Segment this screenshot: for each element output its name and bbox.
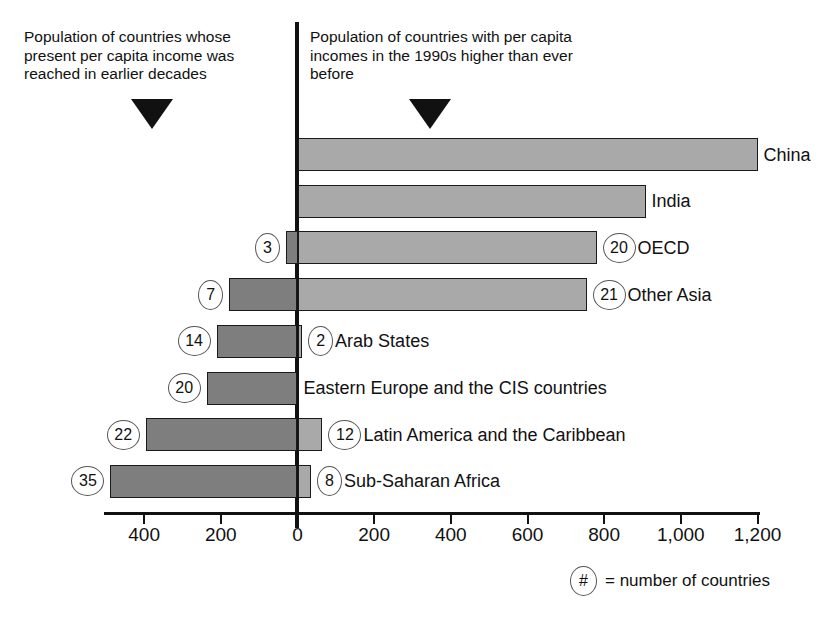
- x-axis-tick: [143, 515, 145, 524]
- bar-left-eastern-europe-and-the-cis-countries: [207, 372, 298, 405]
- x-axis-tick-label: 400: [128, 524, 160, 546]
- caption-left: Population of countries whose present pe…: [24, 28, 284, 84]
- country-count-badge-left: 14: [178, 326, 211, 356]
- bar-left-other-asia: [229, 278, 297, 311]
- x-axis-tick: [527, 515, 529, 524]
- bar-category-label: India: [652, 191, 691, 212]
- bar-category-label: Sub-Saharan Africa: [344, 471, 500, 492]
- x-axis-tick-label: 800: [588, 524, 620, 546]
- x-axis-tick-label: 200: [205, 524, 237, 546]
- zero-axis-line: [295, 22, 299, 528]
- pointer-triangle-right-icon: [409, 99, 451, 129]
- x-axis-tick-label: 1,000: [657, 524, 705, 546]
- x-axis-tick: [757, 515, 759, 524]
- bar-right-arab-states: [298, 325, 303, 358]
- bar-right-sub-saharan-africa: [298, 465, 311, 498]
- chart-canvas: Population of countries whose present pe…: [0, 0, 838, 620]
- x-axis-tick-label: 600: [512, 524, 544, 546]
- bar-category-label: Arab States: [335, 331, 429, 352]
- x-axis-tick: [220, 515, 222, 524]
- bar-right-other-asia: [298, 278, 587, 311]
- bar-category-label: Other Asia: [628, 284, 712, 305]
- bar-right-latin-america-and-the-caribbean: [298, 418, 323, 451]
- x-axis-tick: [373, 515, 375, 524]
- bar-left-sub-saharan-africa: [110, 465, 297, 498]
- x-axis-line: [104, 512, 760, 515]
- bar-category-label: China: [764, 144, 811, 165]
- country-count-badge-right: 20: [603, 233, 636, 263]
- bar-right-oecd: [298, 231, 597, 264]
- bar-right-india: [298, 185, 646, 218]
- bar-left-oecd: [286, 231, 298, 264]
- x-axis-tick: [297, 515, 299, 524]
- x-axis-tick-label: 400: [435, 524, 467, 546]
- hash-symbol-icon: #: [570, 566, 597, 596]
- bar-category-label: Latin America and the Caribbean: [363, 424, 625, 445]
- country-count-badge-left: 22: [107, 420, 140, 450]
- caption-right: Population of countries with per capita …: [310, 28, 600, 84]
- bar-left-arab-states: [217, 325, 298, 358]
- country-count-badge-right: 21: [593, 280, 626, 310]
- country-count-badge-left: 7: [198, 280, 223, 310]
- country-count-badge-left: 20: [168, 373, 201, 403]
- bar-category-label: OECD: [638, 237, 690, 258]
- x-axis-tick: [603, 515, 605, 524]
- x-axis-tick-label: 1,200: [734, 524, 782, 546]
- x-axis-tick-label: 0: [292, 524, 303, 546]
- x-axis-tick: [680, 515, 682, 524]
- country-count-badge-right: 8: [317, 466, 342, 496]
- country-count-badge-left: 3: [255, 233, 280, 263]
- country-count-badge-left: 35: [71, 466, 104, 496]
- legend-footnote-text: = number of countries: [605, 571, 770, 591]
- bar-category-label: Eastern Europe and the CIS countries: [304, 378, 607, 399]
- legend-footnote: # = number of countries: [570, 566, 770, 596]
- x-axis-tick-label: 200: [358, 524, 390, 546]
- pointer-triangle-left-icon: [131, 99, 173, 129]
- x-axis-tick: [450, 515, 452, 524]
- bar-right-china: [298, 138, 758, 171]
- country-count-badge-right: 12: [328, 420, 361, 450]
- bar-left-latin-america-and-the-caribbean: [146, 418, 298, 451]
- country-count-badge-right: 2: [308, 326, 333, 356]
